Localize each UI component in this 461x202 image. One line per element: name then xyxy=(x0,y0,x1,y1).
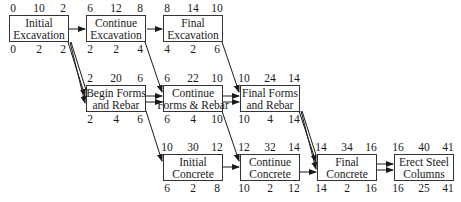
node-label-line1: Continue xyxy=(95,17,137,29)
node-erect-steel-columns: 16 40 41 Erect Steel Columns 16 25 41 xyxy=(394,154,454,181)
late-finish: 10 xyxy=(207,113,227,125)
node-label-line1: Final xyxy=(335,156,359,168)
node-label-line1: Continue xyxy=(249,156,291,168)
node-box: Continue Excavation xyxy=(86,15,146,42)
early-finish: 8 xyxy=(130,2,150,14)
early-start: 16 xyxy=(388,141,408,153)
early-start: 6 xyxy=(157,72,177,84)
late-finish: 12 xyxy=(284,182,304,194)
node-value-bottom-middle: 2 xyxy=(260,182,280,194)
late-finish: 8 xyxy=(207,182,227,194)
node-value-top-middle: 32 xyxy=(260,141,280,153)
late-finish: 16 xyxy=(361,182,381,194)
node-box: Continue Concrete xyxy=(240,154,300,181)
node-initial-excavation: 0 10 2 Initial Excavation 0 2 2 xyxy=(9,15,69,42)
node-final-excavation: 8 14 10 Final Excavation 4 2 6 xyxy=(163,15,223,42)
late-start: 6 xyxy=(157,182,177,194)
node-label-line1: Continue xyxy=(172,87,214,99)
early-start: 8 xyxy=(157,2,177,14)
node-box: Continue Forms & Rebar xyxy=(163,85,223,112)
late-start: 4 xyxy=(157,43,177,55)
node-box: Begin Forms and Rebar xyxy=(86,85,146,112)
early-finish: 10 xyxy=(207,72,227,84)
node-label-line1: Final xyxy=(181,17,205,29)
early-start: 6 xyxy=(80,2,100,14)
late-start: 6 xyxy=(157,113,177,125)
node-initial-concrete: 10 30 12 Initial Concrete 6 2 8 xyxy=(163,154,223,181)
node-box: Initial Excavation xyxy=(9,15,69,42)
late-start: 2 xyxy=(80,43,100,55)
node-box: Final Concrete xyxy=(317,154,377,181)
early-start: 14 xyxy=(311,141,331,153)
node-value-bottom-middle: 4 xyxy=(183,113,203,125)
early-finish: 2 xyxy=(53,2,73,14)
node-label-line2: Excavation xyxy=(90,29,142,41)
early-finish: 12 xyxy=(207,141,227,153)
node-value-bottom-middle: 2 xyxy=(106,43,126,55)
node-label-line2: and Rebar xyxy=(93,99,140,111)
late-start: 10 xyxy=(234,182,254,194)
node-label-line2: Concrete xyxy=(249,168,291,180)
node-label-line2: Columns xyxy=(403,168,445,180)
late-finish: 6 xyxy=(207,43,227,55)
node-value-top-middle: 12 xyxy=(106,2,126,14)
edges-layer xyxy=(0,0,461,202)
late-finish: 4 xyxy=(130,43,150,55)
late-start: 0 xyxy=(3,43,23,55)
node-value-top-middle: 40 xyxy=(414,141,434,153)
node-begin-forms-and-rebar: 2 20 6 Begin Forms and Rebar 2 4 6 xyxy=(86,85,146,112)
node-box: Initial Concrete xyxy=(163,154,223,181)
early-finish: 6 xyxy=(130,72,150,84)
node-label-line1: Erect Steel xyxy=(399,156,449,168)
node-value-top-middle: 22 xyxy=(183,72,203,84)
early-start: 10 xyxy=(234,72,254,84)
early-finish: 41 xyxy=(438,141,458,153)
node-continue-concrete: 12 32 14 Continue Concrete 10 2 12 xyxy=(240,154,300,181)
node-value-bottom-middle: 2 xyxy=(337,182,357,194)
early-start: 10 xyxy=(157,141,177,153)
node-box: Final Excavation xyxy=(163,15,223,42)
node-value-bottom-middle: 4 xyxy=(106,113,126,125)
late-start: 2 xyxy=(80,113,100,125)
node-value-bottom-middle: 2 xyxy=(183,182,203,194)
late-start: 14 xyxy=(311,182,331,194)
node-value-bottom-middle: 2 xyxy=(183,43,203,55)
node-value-top-middle: 30 xyxy=(183,141,203,153)
node-value-top-middle: 24 xyxy=(260,72,280,84)
node-value-top-middle: 20 xyxy=(106,72,126,84)
late-finish: 6 xyxy=(130,113,150,125)
node-label-line2: Forms & Rebar xyxy=(157,99,229,111)
network-diagram: 0 10 2 Initial Excavation 0 2 2 6 12 8 C… xyxy=(0,0,461,202)
node-label-line2: Excavation xyxy=(13,29,65,41)
late-finish: 2 xyxy=(53,43,73,55)
node-continue-forms-and-rebar: 6 22 10 Continue Forms & Rebar 6 4 10 xyxy=(163,85,223,112)
node-box: Final Forms and Rebar xyxy=(240,85,300,112)
early-finish: 10 xyxy=(207,2,227,14)
node-value-bottom-middle: 2 xyxy=(29,43,49,55)
late-finish: 14 xyxy=(284,113,304,125)
early-start: 2 xyxy=(80,72,100,84)
node-value-top-middle: 14 xyxy=(183,2,203,14)
node-label-line2: Concrete xyxy=(326,168,368,180)
node-value-bottom-middle: 4 xyxy=(260,113,280,125)
node-label-line2: and Rebar xyxy=(247,99,294,111)
late-finish: 41 xyxy=(438,182,458,194)
early-finish: 16 xyxy=(361,141,381,153)
node-value-bottom-middle: 25 xyxy=(414,182,434,194)
late-start: 10 xyxy=(234,113,254,125)
early-start: 12 xyxy=(234,141,254,153)
early-start: 0 xyxy=(3,2,23,14)
node-label-line1: Initial xyxy=(25,17,52,29)
node-continue-excavation: 6 12 8 Continue Excavation 2 2 4 xyxy=(86,15,146,42)
node-label-line1: Begin Forms xyxy=(86,87,146,99)
late-start: 16 xyxy=(388,182,408,194)
node-value-top-middle: 10 xyxy=(29,2,49,14)
node-box: Erect Steel Columns xyxy=(394,154,454,181)
node-label-line2: Concrete xyxy=(172,168,214,180)
node-final-forms-and-rebar: 10 24 14 Final Forms and Rebar 10 4 14 xyxy=(240,85,300,112)
node-label-line1: Initial xyxy=(179,156,206,168)
early-finish: 14 xyxy=(284,141,304,153)
node-label-line2: Excavation xyxy=(167,29,219,41)
node-label-line1: Final Forms xyxy=(242,87,298,99)
node-final-concrete: 14 34 16 Final Concrete 14 2 16 xyxy=(317,154,377,181)
